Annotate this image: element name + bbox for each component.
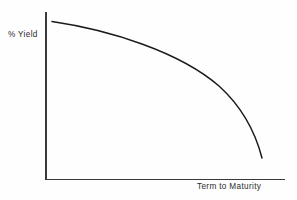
y-axis-label: % Yield <box>8 29 38 40</box>
axes-group <box>46 12 285 180</box>
chart-canvas <box>0 0 297 200</box>
x-axis-label: Term to Maturity <box>197 181 261 192</box>
yield-curve-figure-page: { "figure": { "name": "inverted-yield-cu… <box>0 0 297 200</box>
yield-curve-line <box>52 22 262 159</box>
data-series-group <box>52 22 262 159</box>
